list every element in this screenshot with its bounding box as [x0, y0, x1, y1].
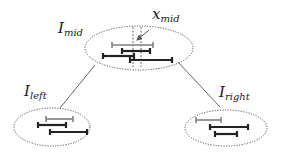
- label-i-mid: Imid: [58, 20, 83, 38]
- interval-dark: [215, 131, 237, 137]
- node-left: [14, 108, 90, 146]
- interval-dark: [210, 124, 248, 130]
- interval-dark: [122, 48, 150, 54]
- edge-mid-right: [178, 62, 220, 107]
- x-mid-arrow-icon: [137, 30, 149, 40]
- interval-light: [112, 42, 153, 48]
- interval-dark: [130, 57, 172, 63]
- node-right: [185, 110, 267, 146]
- interval-dark: [50, 129, 87, 135]
- interval-light: [196, 117, 221, 123]
- interval-light: [46, 116, 73, 122]
- ellipse-left: [14, 108, 90, 146]
- interval-tree-diagram: [0, 0, 282, 153]
- interval-dark: [38, 122, 66, 128]
- ellipse-mid: [85, 26, 193, 70]
- label-i-left: Ileft: [24, 83, 47, 101]
- tree-edges: [60, 62, 220, 108]
- node-mid: [85, 26, 193, 70]
- edge-mid-left: [60, 65, 95, 108]
- label-i-right: Iright: [219, 84, 250, 102]
- label-x-mid: xmid: [152, 6, 180, 24]
